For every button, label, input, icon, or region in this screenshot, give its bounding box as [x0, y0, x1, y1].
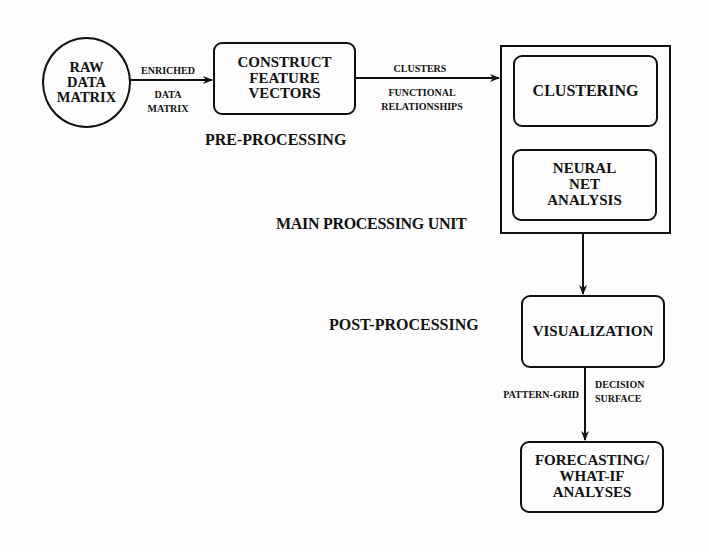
node-label-line: FEATURE: [237, 71, 331, 87]
stage-label-pre-processing: PRE-PROCESSING: [205, 131, 346, 149]
visualization-node: VISUALIZATION: [521, 295, 665, 368]
node-label-line: WHAT-IF: [535, 469, 649, 485]
edge-label-line: SURFACE: [595, 392, 665, 406]
node-label-line: VECTORS: [237, 86, 331, 102]
construct-feature-vectors-node: CONSTRUCT FEATURE VECTORS: [213, 42, 356, 115]
stage-label-main-processing: MAIN PROCESSING UNIT: [276, 215, 466, 233]
edge-label-line: MATRIX: [136, 102, 200, 116]
edge-label-decision-surface: DECISION SURFACE: [595, 378, 665, 405]
node-label-line: ANALYSIS: [547, 193, 621, 209]
edge-label-line: DECISION: [595, 378, 665, 392]
node-label-line: NEURAL: [547, 161, 621, 177]
node-label-line: MATRIX: [57, 90, 116, 105]
node-label-line: DATA: [57, 75, 116, 90]
edge-label-data-matrix: DATA MATRIX: [136, 88, 200, 115]
node-label-line: NET: [547, 177, 621, 193]
forecasting-what-if-node: FORECASTING/ WHAT-IF ANALYSES: [520, 441, 664, 513]
node-label-line: ANALYSES: [535, 485, 649, 501]
edge-label-enriched: ENRICHED: [132, 64, 204, 78]
edge-label-line: RELATIONSHIPS: [370, 100, 474, 114]
edge-label-clusters: CLUSTERS: [370, 62, 470, 76]
edge-label-pattern-grid: PATTERN-GRID: [469, 388, 579, 402]
edge-label-line: DATA: [136, 88, 200, 102]
neural-net-analysis-node: NEURAL NET ANALYSIS: [512, 149, 657, 221]
raw-data-matrix-node: RAW DATA MATRIX: [42, 37, 131, 128]
edge-label-line: FUNCTIONAL: [370, 86, 474, 100]
node-label-line: CLUSTERING: [533, 83, 639, 100]
stage-label-post-processing: POST-PROCESSING: [329, 316, 479, 334]
node-label-line: RAW: [57, 60, 116, 75]
node-label-line: FORECASTING/: [535, 453, 649, 469]
node-label-line: VISUALIZATION: [533, 324, 654, 340]
edge-label-functional-relationships: FUNCTIONAL RELATIONSHIPS: [370, 86, 474, 113]
node-label-line: CONSTRUCT: [237, 55, 331, 71]
clustering-node: CLUSTERING: [513, 55, 658, 127]
